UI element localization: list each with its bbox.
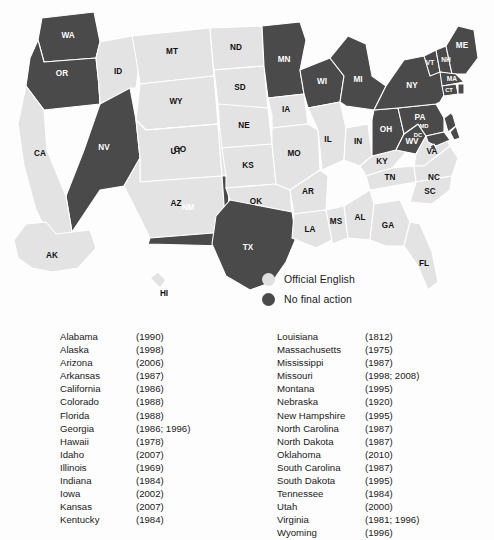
state-label-sd: SD <box>234 83 245 92</box>
state-name: Alabama <box>60 330 136 343</box>
state-year: (1987) <box>365 422 393 435</box>
state-label-co: CO <box>174 145 187 154</box>
list-item: Iowa(2002) <box>60 487 265 500</box>
state-name: Kansas <box>60 500 136 513</box>
legend-label-official-english: Official English <box>284 273 355 285</box>
state-year: (2010) <box>365 448 393 461</box>
state-label-sc: SC <box>424 187 435 196</box>
state-year: (1995) <box>365 409 393 422</box>
list-item: Indiana(1984) <box>60 474 265 487</box>
state-year: (1995) <box>365 474 393 487</box>
state-name: Wyoming <box>277 526 365 539</box>
list-item: Wyoming(1996) <box>277 526 482 539</box>
state-year: (1984) <box>365 487 393 500</box>
state-year: (1987) <box>365 356 393 369</box>
list-item: Florida(1988) <box>60 409 265 422</box>
list-item: Hawaii(1978) <box>60 435 265 448</box>
legend-swatch-no-final-action <box>262 293 275 306</box>
list-item: Virginia(1981; 1996) <box>277 513 482 526</box>
state-label-hi: HI <box>160 289 168 298</box>
state-name: Florida <box>60 409 136 422</box>
state-label-tx: TX <box>243 243 254 252</box>
state-name: Massachusetts <box>277 343 365 356</box>
state-name: Idaho <box>60 448 136 461</box>
list-item: Alabama(1990) <box>60 330 265 343</box>
state-label-ny: NY <box>406 81 418 90</box>
state-label-nc: NC <box>428 173 440 182</box>
state-year: (1990) <box>136 330 164 343</box>
state-label-id: ID <box>114 67 122 76</box>
state-name: Colorado <box>60 395 136 408</box>
state-year: (1975) <box>365 343 393 356</box>
state-name: Georgia <box>60 422 136 435</box>
state-name: Utah <box>277 500 365 513</box>
state-name: Virginia <box>277 513 365 526</box>
state-name: Louisiana <box>277 330 365 343</box>
list-item: Arkansas(1987) <box>60 369 265 382</box>
state-label-ga: GA <box>382 221 394 230</box>
state-year: (2002) <box>136 487 164 500</box>
state-list-column-right: Louisiana(1812)Massachusetts(1975)Missis… <box>277 330 482 540</box>
list-item: Kentucky(1984) <box>60 513 265 526</box>
state-year: (1987) <box>365 461 393 474</box>
state-name: Arkansas <box>60 369 136 382</box>
state-year: (1998) <box>136 343 164 356</box>
list-item: Kansas(2007) <box>60 500 265 513</box>
list-item: Arizona(2006) <box>60 356 265 369</box>
state-year: (1981; 1996) <box>365 513 419 526</box>
state-name: Illinois <box>60 461 136 474</box>
legend-item-official-english: Official English <box>262 270 412 288</box>
state-year: (1986; 1996) <box>136 422 190 435</box>
state-label-va: VA <box>427 147 438 156</box>
list-item: North Carolina(1987) <box>277 422 482 435</box>
state-name: Nebraska <box>277 395 365 408</box>
state-name: Kentucky <box>60 513 136 526</box>
state-label-nm: NM <box>182 203 195 212</box>
state-name: South Carolina <box>277 461 365 474</box>
state-label-ok: OK <box>250 197 262 206</box>
state-label-mi: MI <box>353 75 362 84</box>
list-item: Oklahoma(2010) <box>277 448 482 461</box>
state-year: (1998; 2008) <box>365 369 419 382</box>
state-name: Hawaii <box>60 435 136 448</box>
list-item: Alaska(1998) <box>60 343 265 356</box>
state-name: Alaska <box>60 343 136 356</box>
state-year: (1987) <box>365 435 393 448</box>
state-label-nj: NJ <box>451 109 460 116</box>
state-name: New Hampshire <box>277 409 365 422</box>
state-year: (2000) <box>365 500 393 513</box>
list-item: Illinois(1969) <box>60 461 265 474</box>
list-item: California(1986) <box>60 382 265 395</box>
state-name: Mississippi <box>277 356 365 369</box>
state-label-fl: FL <box>419 259 429 268</box>
list-item: Louisiana(1812) <box>277 330 482 343</box>
state-label-ma: MA <box>447 75 457 82</box>
list-item: Missouri(1998; 2008) <box>277 369 482 382</box>
state-year: (1969) <box>136 461 164 474</box>
state-label-wa: WA <box>61 31 74 40</box>
state-label-al: AL <box>355 213 366 222</box>
state-label-ak: AK <box>46 251 58 260</box>
state-label-mn: MN <box>278 55 291 64</box>
legend-label-no-final-action: No final action <box>284 293 352 305</box>
state-label-nh: NH <box>441 56 451 63</box>
state-label-wv: WV <box>405 137 419 146</box>
state-name: North Dakota <box>277 435 365 448</box>
state-list-column-left: Alabama(1990)Alaska(1998)Arizona(2006)Ar… <box>60 330 265 540</box>
state-label-ms: MS <box>330 217 343 226</box>
state-year: (1984) <box>136 474 164 487</box>
state-label-pa: PA <box>415 113 426 122</box>
state-label-de: DE <box>459 127 469 134</box>
state-year: (2006) <box>136 356 164 369</box>
state-label-nv: NV <box>98 143 110 152</box>
list-item: Utah(2000) <box>277 500 482 513</box>
state-year: (1988) <box>136 409 164 422</box>
legend-item-no-final-action: No final action <box>262 290 412 308</box>
state-label-ar: AR <box>302 187 314 196</box>
state-label-tn: TN <box>385 173 396 182</box>
state-year: (1920) <box>365 395 393 408</box>
state-year: (1988) <box>136 395 164 408</box>
legend-swatch-official-english <box>262 273 275 286</box>
state-year: (1996) <box>365 526 393 539</box>
state-label-md: MD <box>419 123 428 129</box>
